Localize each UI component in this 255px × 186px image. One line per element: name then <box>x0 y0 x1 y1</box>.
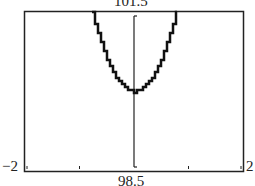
graph-plot <box>0 0 255 186</box>
